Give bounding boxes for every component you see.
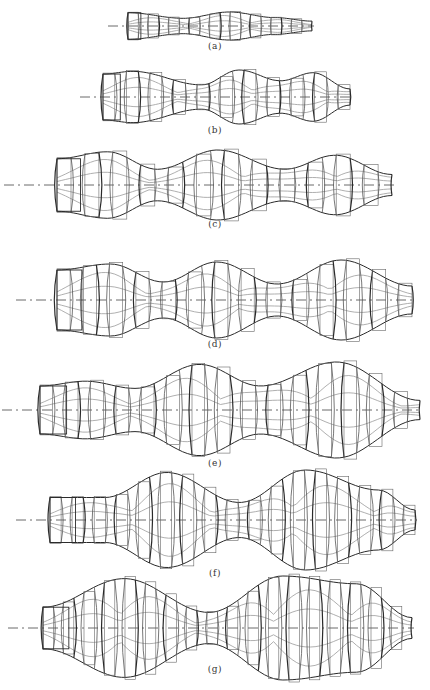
lens-surface xyxy=(238,600,240,655)
lens-surface xyxy=(258,585,261,671)
lens-surface xyxy=(320,580,323,676)
lens-drawing-g xyxy=(0,0,430,690)
panel-caption-g: (g) xyxy=(0,664,430,674)
lens-layout-panel-g: (g) xyxy=(0,0,430,690)
lens-surface xyxy=(163,595,166,661)
